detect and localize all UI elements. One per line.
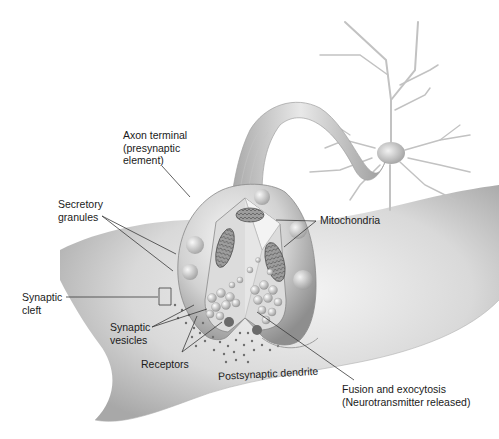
neuron — [310, 22, 470, 210]
label-receptors: Receptors — [141, 358, 189, 371]
label-mitochondria: Mitochondria — [320, 214, 380, 227]
neuron-soma — [377, 142, 405, 164]
label-fusion-exocytosis: Fusion and exocytosis (Neurotransmitter … — [342, 383, 470, 408]
fusing-vesicle — [252, 325, 262, 335]
fusing-vesicle — [224, 317, 234, 327]
label-secretory-granules: Secretory granules — [58, 198, 103, 223]
label-synaptic-vesicles: Synaptic vesicles — [110, 321, 150, 346]
label-synaptic-cleft: Synaptic cleft — [22, 291, 62, 316]
axon — [232, 102, 385, 195]
label-axon-terminal: Axon terminal (presynaptic element) — [123, 129, 187, 167]
synapse-diagram: Axon terminal (presynaptic element) Secr… — [0, 0, 499, 439]
